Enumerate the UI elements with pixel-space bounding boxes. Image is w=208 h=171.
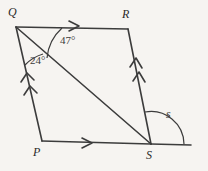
angle-label-47: 47° — [60, 35, 75, 46]
geometry-figure — [0, 0, 208, 171]
segment-QP — [16, 27, 42, 141]
segment-PS — [42, 141, 151, 144]
diagram-canvas: Q R P S 47° 24° s — [0, 0, 208, 171]
vertex-label-Q: Q — [8, 6, 17, 18]
vertex-label-P: P — [33, 146, 40, 158]
vertex-label-R: R — [122, 8, 129, 20]
angle-label-24: 24° — [30, 55, 45, 66]
segment-S-extension-ray — [151, 144, 191, 145]
angle-label-s: s — [166, 108, 171, 120]
angle-arc-s — [145, 111, 184, 144]
arrowhead-QR-single — [69, 21, 79, 31]
vertex-label-S: S — [146, 149, 152, 161]
